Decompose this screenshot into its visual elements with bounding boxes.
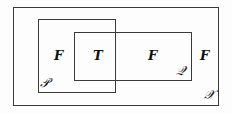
set-diagram-figure: F T F F 𝒫 𝒬 𝒳 (0, 0, 232, 114)
region-label-f-right: F (148, 49, 157, 62)
rectangle-set-q (74, 32, 192, 81)
region-label-f-outer: F (200, 49, 209, 62)
set-label-universe-x: 𝒳 (204, 88, 215, 101)
region-label-t-center: T (93, 49, 103, 62)
set-label-q: 𝒬 (176, 64, 185, 77)
region-label-f-left: F (54, 49, 63, 62)
set-label-p: 𝒫 (40, 76, 49, 89)
